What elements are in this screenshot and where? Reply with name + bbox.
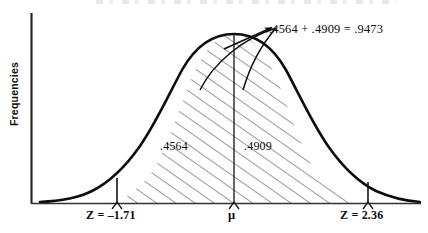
x-tick-label-mean: μ [228,208,235,223]
x-tick-label-right: Z = 2.36 [340,208,383,223]
sum-annotation-label: .4564 + .4909 = .9473 [269,22,383,37]
normal-distribution-figure: Frequencies .4564 + .4909 = .9473 .4564 … [0,0,428,233]
area-label-right: .4909 [244,139,272,154]
shaded-area-hatching [110,28,374,204]
y-axis-label: Frequencies [8,52,20,136]
x-tick-label-left: Z = –1.71 [86,208,136,223]
area-label-left: .4564 [160,139,188,154]
